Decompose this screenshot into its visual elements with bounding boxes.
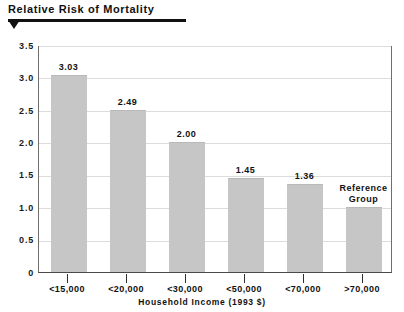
bar-value-label: 1.45 <box>236 165 256 176</box>
y-tick-label: 2.5 <box>4 106 34 116</box>
bar-slot: Reference Group <box>334 46 393 272</box>
y-tick-label: 0.5 <box>4 235 34 245</box>
y-tick-label: 1.0 <box>4 203 34 213</box>
bar-series: 3.03 2.49 2.00 1.45 1.36 Refe <box>39 46 391 272</box>
x-tick-label: <50,000 <box>226 284 262 294</box>
x-tick-mark <box>126 274 127 283</box>
reference-group-line1: Reference <box>339 183 387 193</box>
y-tick-label: 2.0 <box>4 138 34 148</box>
y-tick-label: 3.5 <box>4 41 34 51</box>
bar[interactable] <box>51 75 87 272</box>
bar[interactable] <box>228 178 264 272</box>
x-tick-mark <box>67 274 68 283</box>
page-title: Relative Risk of Mortality <box>8 3 188 16</box>
bar-slot: 1.36 <box>275 46 334 272</box>
bar-value-label: 2.49 <box>118 97 138 108</box>
y-tick-label: 0 <box>4 268 34 278</box>
x-tick-label: >70,000 <box>344 284 380 294</box>
triangle-marker-icon <box>8 20 20 29</box>
bar-slot: 1.45 <box>216 46 275 272</box>
reference-group-line2: Group <box>349 194 379 204</box>
x-axis-title: Household Income (1993 $) <box>0 297 404 307</box>
x-tick-label: <70,000 <box>285 284 321 294</box>
y-tick-label: 1.5 <box>4 170 34 180</box>
chart-title-block: Relative Risk of Mortality <box>8 3 188 29</box>
bar-slot: 3.03 <box>39 46 98 272</box>
x-tick-label: <15,000 <box>49 284 85 294</box>
bar[interactable] <box>110 110 146 272</box>
y-tick-label: 3.0 <box>4 73 34 83</box>
bar-slot: 2.49 <box>98 46 157 272</box>
x-tick-mark <box>185 274 186 283</box>
bar[interactable] <box>346 207 382 272</box>
plot-area: 3.03 2.49 2.00 1.45 1.36 Refe <box>38 46 392 273</box>
title-underline <box>8 19 186 22</box>
x-tick-mark <box>303 274 304 283</box>
bar[interactable] <box>287 184 323 272</box>
x-tick-label: <30,000 <box>167 284 203 294</box>
reference-group-annotation: Reference Group <box>339 183 387 205</box>
x-tick-label: <20,000 <box>108 284 144 294</box>
chart-figure: Relative Risk of Mortality 0 0.5 1.0 1.5… <box>0 0 404 312</box>
bar[interactable] <box>169 142 205 272</box>
bar-value-label: 2.00 <box>177 129 197 140</box>
bar-slot: 2.00 <box>157 46 216 272</box>
x-tick-mark <box>244 274 245 283</box>
bar-value-label: 3.03 <box>59 62 79 73</box>
x-tick-mark <box>362 274 363 283</box>
bar-value-label: 1.36 <box>295 171 315 182</box>
